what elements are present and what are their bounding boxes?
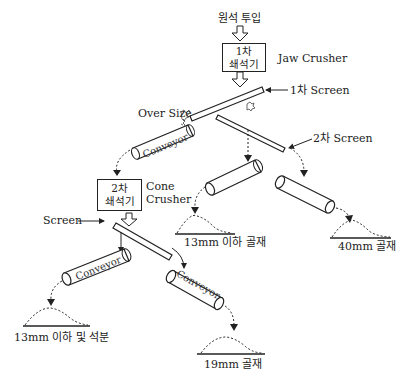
product-40mm-label: 40mm 골재 <box>338 240 396 253</box>
product-19mm-label: 19mm 골재 <box>204 358 262 371</box>
product-13mm-label: 13mm 이하 골재 <box>184 236 266 249</box>
secondary-screen <box>216 115 285 152</box>
oversize-label: Over Size <box>138 107 192 120</box>
secondary-crusher-line1: 2차 <box>111 182 128 195</box>
secondary-crusher-box: 2차 쇄석기 <box>97 179 142 211</box>
pile-13mm-fines <box>23 308 90 326</box>
secondary-crusher-type-line2: Crusher <box>146 193 191 206</box>
crusher-to-screen-arrow-icon <box>232 72 248 87</box>
primary-screen <box>190 87 264 121</box>
secondary-screen-label: 2차 Screen <box>313 132 373 145</box>
conveyor-right <box>273 174 336 214</box>
pile-40mm <box>330 220 391 238</box>
primary-crusher-line2: 쇄석기 <box>229 58 259 71</box>
primary-crusher-type: Jaw Crusher <box>278 52 347 65</box>
pile-19mm <box>197 337 265 354</box>
primary-crusher-box: 1차 쇄석기 <box>222 43 266 72</box>
undersize-particles-icon <box>247 102 255 111</box>
primary-screen-label: 1차 Screen <box>290 84 350 97</box>
primary-crusher-line1: 1차 <box>236 45 253 58</box>
tertiary-screen-label: Screen <box>43 214 82 227</box>
input-arrow-icon <box>232 26 248 41</box>
secondary-crusher-type-line1: Cone <box>146 180 175 193</box>
input-label: 원석 투입 <box>218 12 262 25</box>
product-13mm-fines-label: 13mm 이하 및 석분 <box>14 331 109 344</box>
secondary-crusher-line2: 쇄석기 <box>105 195 135 208</box>
crushing-process-diagram: 원석 투입 1차 쇄석기 Jaw Crusher 1차 Screen Over … <box>0 0 404 379</box>
conveyor-middle <box>204 158 265 196</box>
pile-13mm <box>175 215 235 234</box>
